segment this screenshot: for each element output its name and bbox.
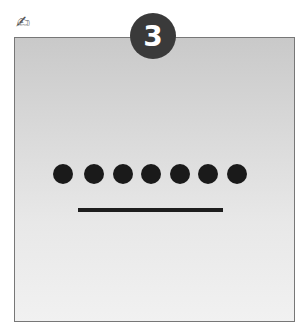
dot bbox=[113, 164, 133, 184]
dot bbox=[84, 164, 104, 184]
answer-line bbox=[78, 208, 223, 212]
step-number-badge: 3 bbox=[130, 13, 176, 59]
dot bbox=[53, 164, 73, 184]
dot bbox=[198, 164, 218, 184]
writing-hand-icon: ✍ bbox=[16, 14, 30, 31]
dot bbox=[141, 164, 161, 184]
dot bbox=[227, 164, 247, 184]
dot bbox=[170, 164, 190, 184]
